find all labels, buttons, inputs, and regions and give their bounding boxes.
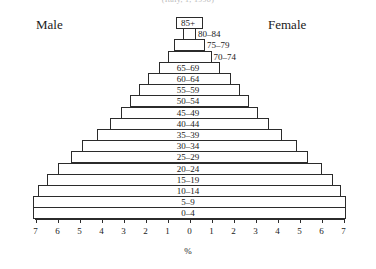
x-axis-tick-label: 5	[70, 226, 90, 236]
pyramid-row: 80–84	[0, 28, 376, 40]
pyramid-row: 70–74	[0, 51, 376, 63]
age-group-label: 5–9	[0, 196, 376, 208]
pyramid-row: 5–9	[0, 196, 376, 208]
pyramid-row: 60–64	[0, 73, 376, 85]
pyramid-row: 25–29	[0, 151, 376, 163]
x-axis-tick-label: 3	[114, 226, 134, 236]
x-axis-tick	[300, 219, 301, 223]
pyramid-plot-area: 85+80–8475–7970–7465–6960–6455–5950–5445…	[0, 17, 376, 217]
x-axis-tick-label: 7	[334, 226, 354, 236]
x-axis-tick	[322, 219, 323, 223]
x-axis-tick-label: 6	[48, 226, 68, 236]
pyramid-row: 35–39	[0, 129, 376, 141]
age-group-label: 75–79	[207, 39, 230, 51]
age-group-label: 50–54	[0, 95, 376, 107]
age-group-label: 10–14	[0, 185, 376, 197]
x-axis-tick-label: 1	[202, 226, 222, 236]
x-axis-tick	[344, 219, 345, 223]
pyramid-row: 40–44	[0, 118, 376, 130]
age-group-label: 60–64	[0, 73, 376, 85]
pyramid-row: 0–4	[0, 207, 376, 219]
pyramid-row: 10–14	[0, 185, 376, 197]
figure-caption: (Italy, 1, 1998)	[0, 0, 376, 4]
x-axis-tick	[124, 219, 125, 223]
x-axis-tick	[256, 219, 257, 223]
pyramid-row: 45–49	[0, 107, 376, 119]
age-group-label: 85+	[0, 17, 376, 29]
age-group-label: 20–24	[0, 163, 376, 175]
x-axis-tick	[168, 219, 169, 223]
age-group-label: 30–34	[0, 140, 376, 152]
pyramid-row: 85+	[0, 17, 376, 29]
age-group-label: 0–4	[0, 207, 376, 219]
x-axis-tick-label: 2	[224, 226, 244, 236]
age-group-label: 55–59	[0, 84, 376, 96]
age-group-label: 40–44	[0, 118, 376, 130]
age-group-label: 25–29	[0, 151, 376, 163]
pyramid-bar	[183, 28, 196, 40]
x-axis-tick-label: 4	[92, 226, 112, 236]
x-axis-tick-label: 4	[268, 226, 288, 236]
pyramid-row: 75–79	[0, 39, 376, 51]
x-axis-tick-label: 3	[246, 226, 266, 236]
x-axis-tick	[102, 219, 103, 223]
x-axis-tick	[36, 219, 37, 223]
x-axis-title: %	[0, 246, 376, 256]
age-group-label: 45–49	[0, 107, 376, 119]
pyramid-row: 15–19	[0, 174, 376, 186]
x-axis-tick-label: 7	[26, 226, 46, 236]
x-axis-tick	[80, 219, 81, 223]
pyramid-row: 50–54	[0, 95, 376, 107]
x-axis-tick	[212, 219, 213, 223]
pyramid-row: 55–59	[0, 84, 376, 96]
x-axis-tick-label: 5	[290, 226, 310, 236]
age-group-label: 80–84	[198, 28, 221, 40]
age-group-label: 70–74	[214, 51, 237, 63]
x-axis-tick	[190, 219, 191, 223]
age-group-label: 15–19	[0, 174, 376, 186]
pyramid-row: 30–34	[0, 140, 376, 152]
pyramid-row: 65–69	[0, 62, 376, 74]
pyramid-bar	[168, 51, 212, 63]
x-axis-tick-label: 2	[136, 226, 156, 236]
x-axis-tick-label: 6	[312, 226, 332, 236]
age-group-label: 65–69	[0, 62, 376, 74]
pyramid-row: 20–24	[0, 163, 376, 175]
x-axis-tick	[234, 219, 235, 223]
x-axis-tick	[278, 219, 279, 223]
x-axis-tick	[146, 219, 147, 223]
x-axis-tick-label: 0	[180, 226, 200, 236]
x-axis: % 765432101234567	[0, 219, 376, 269]
population-pyramid-figure: (Italy, 1, 1998) Male Female 85+80–8475–…	[0, 0, 376, 269]
pyramid-bar	[174, 39, 205, 51]
x-axis-tick	[58, 219, 59, 223]
age-group-label: 35–39	[0, 129, 376, 141]
x-axis-tick-label: 1	[158, 226, 178, 236]
